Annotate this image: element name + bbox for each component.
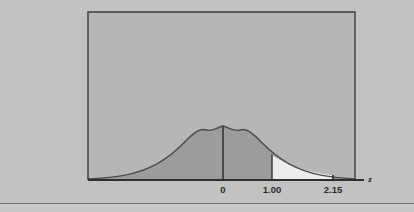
x-tick-label-2: 2.15 bbox=[324, 184, 343, 195]
page-bottom-strip bbox=[0, 204, 414, 212]
normal-curve-chart: 0 1.00 2.15 z bbox=[0, 0, 414, 212]
x-tick-label-1: 1.00 bbox=[263, 184, 282, 195]
x-tick-label-0: 0 bbox=[220, 184, 225, 195]
x-axis-label: z bbox=[367, 174, 372, 184]
normal-distribution-figure: 0 1.00 2.15 z bbox=[0, 0, 414, 212]
